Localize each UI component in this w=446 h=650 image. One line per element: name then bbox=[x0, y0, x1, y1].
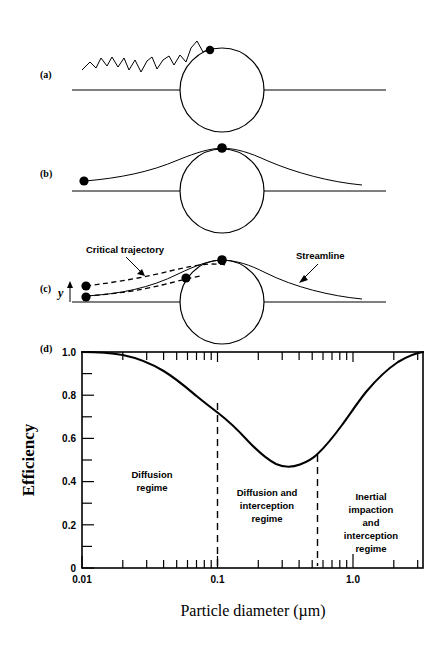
region-inertial-line-4: interception bbox=[344, 530, 399, 541]
region-inertial-line-2: impaction bbox=[349, 504, 394, 515]
panel-b-particle-captured bbox=[217, 143, 227, 153]
y-tick-label-08: 0.8 bbox=[62, 390, 76, 401]
offset-y-label: y bbox=[56, 286, 64, 300]
y-axis-title: Efficiency bbox=[19, 423, 38, 496]
panel-c-fiber-circle bbox=[180, 260, 264, 344]
panel-c-inertial-impaction: y Critical trajectory Streamline (c) bbox=[40, 244, 386, 344]
panel-a-diffusion: (a) bbox=[40, 41, 386, 132]
critical-trajectory-leader bbox=[126, 257, 142, 273]
region-inertial-line-5: regime bbox=[355, 543, 386, 554]
panel-d-label: (d) bbox=[40, 343, 52, 355]
region-diffusion-line-2: regime bbox=[136, 482, 167, 493]
region-label-inertial-interception: Inertial impaction and interception regi… bbox=[344, 491, 399, 554]
region-inertial-line-3: and bbox=[363, 517, 380, 528]
efficiency-curve bbox=[82, 352, 423, 467]
panel-c-particle-lower bbox=[81, 292, 90, 301]
y-axis: 1.0 0.8 0.6 0.4 0.2 0 bbox=[62, 347, 94, 574]
x-tick-label-01: 0.1 bbox=[211, 574, 225, 585]
y-tick-label-0: 0 bbox=[70, 563, 76, 574]
streamline-arrowhead bbox=[299, 275, 308, 283]
panel-c-label: (c) bbox=[40, 283, 51, 295]
panel-c-particle-midpath bbox=[181, 273, 190, 282]
offset-arrow-head bbox=[67, 281, 73, 288]
x-tick-label-001: 0.01 bbox=[72, 574, 92, 585]
x-axis-title: Particle diameter (µm) bbox=[180, 602, 325, 620]
panel-a-label: (a) bbox=[40, 69, 52, 81]
region-diff-int-line-2: interception bbox=[240, 500, 295, 511]
panel-a-particle bbox=[206, 46, 214, 54]
panel-b-fiber-circle bbox=[180, 149, 264, 233]
y-ticks-minor bbox=[82, 374, 92, 547]
region-diff-int-line-3: regime bbox=[251, 513, 282, 524]
x-tick-label-10: 1.0 bbox=[346, 574, 360, 585]
panel-c-streamline-curve bbox=[86, 260, 362, 299]
y-tick-label-04: 0.4 bbox=[62, 476, 76, 487]
panel-c-particle-impacted bbox=[217, 255, 227, 265]
region-label-diffusion: Diffusion regime bbox=[131, 469, 172, 493]
region-inertial-line-1: Inertial bbox=[355, 491, 386, 502]
panel-b-particle-upstream bbox=[79, 176, 88, 185]
panel-a-brownian-path bbox=[82, 41, 209, 72]
panel-a-fiber-circle bbox=[180, 48, 264, 132]
region-diff-int-line-1: Diffusion and bbox=[237, 487, 298, 498]
x-ticks-top bbox=[123, 352, 418, 362]
streamline-label: Streamline bbox=[296, 250, 345, 261]
panel-b-interception: (b) bbox=[40, 143, 386, 233]
region-label-diffusion-interception: Diffusion and interception regime bbox=[237, 487, 298, 524]
critical-trajectory-label: Critical trajectory bbox=[86, 244, 165, 255]
x-ticks-bottom bbox=[82, 554, 418, 568]
figure-canvas: (a) (b) y bbox=[0, 0, 446, 650]
y-tick-label-1: 1.0 bbox=[62, 347, 76, 358]
panel-c-particle-upper bbox=[81, 281, 90, 290]
panel-b-streamline-curve bbox=[85, 148, 362, 185]
y-tick-label-06: 0.6 bbox=[62, 433, 76, 444]
filtration-mechanisms-figure: (a) (b) y bbox=[0, 0, 446, 650]
region-diffusion-line-1: Diffusion bbox=[131, 469, 172, 480]
critical-trajectory-arrowhead bbox=[137, 269, 145, 276]
y-tick-label-02: 0.2 bbox=[62, 520, 76, 531]
panel-d-efficiency-chart: (d) 1 bbox=[19, 343, 423, 620]
panel-b-label: (b) bbox=[40, 168, 52, 180]
